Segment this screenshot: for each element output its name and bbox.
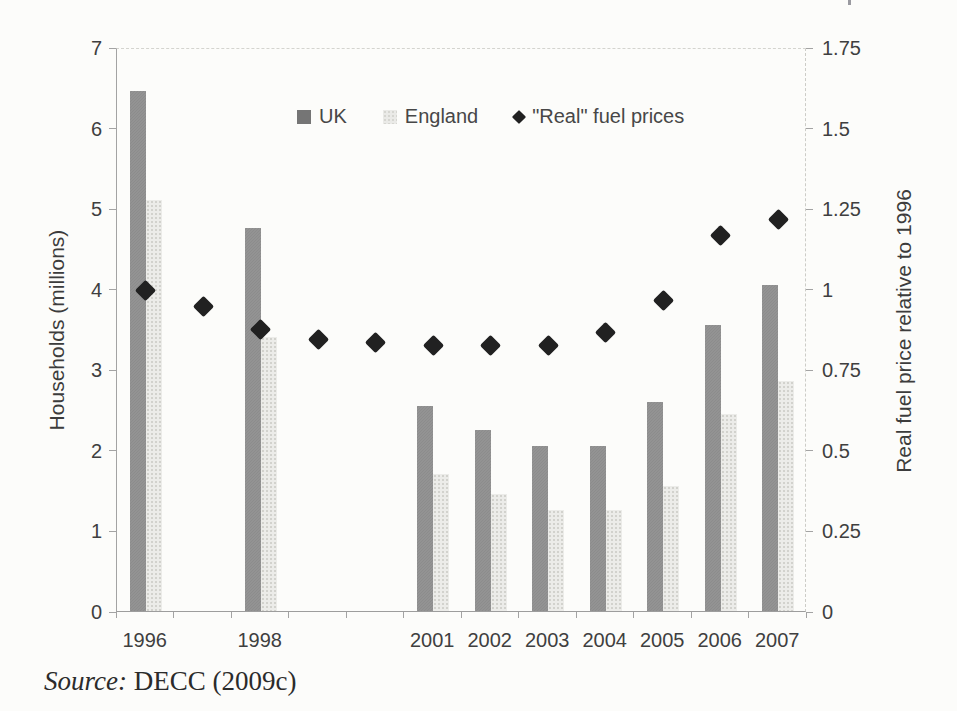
- x-axis-tick: [403, 612, 404, 618]
- left-axis-tick: [109, 450, 116, 451]
- legend-item-fuel-prices: "Real" fuel prices: [514, 105, 684, 128]
- x-axis-tick: [691, 612, 692, 618]
- source-caption-text: DECC (2009c): [127, 666, 296, 696]
- right-axis-tick: [806, 370, 813, 371]
- uk-bar-swatch-icon: [297, 110, 311, 124]
- left-axis-tick-label: 4: [64, 279, 102, 301]
- england-bar-1996: [146, 200, 162, 611]
- fuel-price-diamond-1999: [308, 328, 329, 349]
- right-axis-tick-label: 1.75: [822, 37, 876, 59]
- england-bar-2007: [778, 381, 794, 611]
- x-axis-tick: [346, 612, 347, 618]
- x-axis-tick: [518, 612, 519, 618]
- legend-item-england: England: [383, 105, 478, 128]
- england-bar-2001: [433, 474, 449, 611]
- x-axis-year-label: 2007: [742, 629, 812, 651]
- right-axis-tick: [806, 128, 813, 129]
- left-axis-tick-label: 1: [64, 520, 102, 542]
- legend-label-england: England: [405, 105, 478, 128]
- right-axis-tick: [806, 450, 813, 451]
- fuel-price-diamond-2001: [423, 335, 444, 356]
- right-axis-tick-label: 0.25: [822, 520, 876, 542]
- left-axis-tick: [109, 289, 116, 290]
- left-axis-title: Households (millions): [45, 230, 69, 431]
- england-bar-2002: [491, 494, 507, 611]
- x-axis-tick: [116, 612, 117, 618]
- x-axis-tick: [173, 612, 174, 618]
- england-bar-2003: [548, 510, 564, 611]
- left-axis-tick: [109, 128, 116, 129]
- uk-bar-2002: [475, 430, 491, 611]
- fuel-price-diamond-2007: [768, 209, 789, 230]
- x-axis-year-label: 1996: [110, 629, 180, 651]
- left-axis-tick-label: 0: [64, 601, 102, 623]
- legend-label-uk: UK: [319, 105, 347, 128]
- fuel-price-diamond-2005: [653, 290, 674, 311]
- england-bar-1998: [261, 337, 277, 611]
- uk-bar-2003: [532, 446, 548, 611]
- left-axis-tick: [109, 209, 116, 210]
- x-axis-tick: [461, 612, 462, 618]
- uk-bar-2005: [647, 402, 663, 611]
- fuel-price-diamond-2000: [365, 332, 386, 353]
- england-bar-2004: [606, 510, 622, 611]
- right-axis-tick: [806, 531, 813, 532]
- legend-item-uk: UK: [297, 105, 347, 128]
- right-axis-tick-label: 0.5: [822, 440, 876, 462]
- x-axis-tick: [748, 612, 749, 618]
- england-bar-2005: [663, 486, 679, 611]
- left-axis-tick-label: 5: [64, 198, 102, 220]
- chart-legend: UK England "Real" fuel prices: [297, 105, 684, 128]
- right-axis-title: Real fuel price relative to 1996: [892, 189, 916, 473]
- fuel-price-diamond-1997: [193, 296, 214, 317]
- source-caption: Source: DECC (2009c): [44, 666, 296, 697]
- left-axis-tick: [109, 48, 116, 49]
- left-axis-tick: [109, 370, 116, 371]
- left-axis-tick-label: 3: [64, 359, 102, 381]
- right-axis-tick: [806, 612, 813, 613]
- left-axis-tick-label: 2: [64, 440, 102, 462]
- left-axis-tick-label: 7: [64, 37, 102, 59]
- right-axis-tick-label: 1: [822, 279, 876, 301]
- fuel-price-diamond-2004: [595, 322, 616, 343]
- fuel-price-diamond-2003: [538, 335, 559, 356]
- legend-label-fuel-prices: "Real" fuel prices: [532, 105, 684, 128]
- diamond-swatch-icon: [512, 109, 526, 123]
- england-bar-2006: [721, 414, 737, 611]
- right-axis-tick: [806, 48, 813, 49]
- right-axis-tick: [806, 289, 813, 290]
- left-axis-tick: [109, 531, 116, 532]
- left-axis-tick-label: 6: [64, 118, 102, 140]
- x-axis-tick: [633, 612, 634, 618]
- x-axis-tick: [806, 612, 807, 618]
- figure-container: UK England "Real" fuel prices Households…: [0, 0, 957, 711]
- x-axis-year-label: 1998: [225, 629, 295, 651]
- right-axis-tick: [806, 209, 813, 210]
- scan-artifact-mark: [848, 0, 851, 5]
- source-caption-label: Source:: [44, 666, 127, 696]
- fuel-price-diamond-2002: [480, 335, 501, 356]
- uk-bar-1998: [245, 228, 261, 611]
- right-axis-tick-label: 0: [822, 601, 876, 623]
- x-axis-tick: [231, 612, 232, 618]
- x-axis-tick: [288, 612, 289, 618]
- uk-bar-2004: [590, 446, 606, 611]
- plot-area: [116, 48, 806, 612]
- uk-bar-2001: [417, 406, 433, 611]
- uk-bar-2007: [762, 285, 778, 611]
- right-axis-tick-label: 1.5: [822, 118, 876, 140]
- fuel-price-diamond-2006: [710, 225, 731, 246]
- right-axis-tick-label: 1.25: [822, 198, 876, 220]
- uk-bar-1996: [130, 91, 146, 611]
- uk-bar-2006: [705, 325, 721, 611]
- england-bar-swatch-icon: [383, 110, 397, 124]
- right-axis-tick-label: 0.75: [822, 359, 876, 381]
- x-axis-tick: [576, 612, 577, 618]
